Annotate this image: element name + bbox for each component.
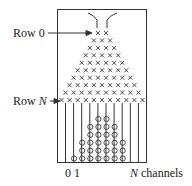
peg-x [136, 91, 140, 95]
peg-x [120, 91, 124, 95]
peg-x [88, 46, 92, 50]
peg-x [72, 76, 76, 80]
peg-x [104, 61, 108, 65]
peg-x [96, 46, 100, 50]
peg-x [100, 68, 104, 72]
peg-x [120, 61, 124, 65]
channels-variable: N [130, 166, 138, 180]
peg-x [84, 98, 88, 102]
peg-x [80, 76, 84, 80]
peg-x [112, 91, 116, 95]
peg-x [128, 76, 132, 80]
peg-x [120, 76, 124, 80]
peg-x [92, 83, 96, 87]
peg-x [128, 91, 132, 95]
row0-arrow [48, 31, 92, 36]
peg-x [92, 53, 96, 57]
peg-x [88, 76, 92, 80]
peg-x [108, 83, 112, 87]
channels-suffix: channels [138, 166, 183, 180]
peg-x [88, 91, 92, 95]
peg-x [100, 38, 104, 42]
peg-x [80, 91, 84, 95]
peg-x [124, 83, 128, 87]
peg-x [88, 61, 92, 65]
peg-x [76, 98, 80, 102]
rowN-arrow [50, 99, 60, 104]
funnel-icon [88, 13, 117, 28]
peg-x [124, 98, 128, 102]
n-channels-label: N channels [130, 167, 183, 179]
peg-x [92, 38, 96, 42]
peg-x [112, 61, 116, 65]
channel-0-label: 0 [65, 167, 71, 179]
peg-rows [60, 31, 145, 102]
peg-x [96, 31, 100, 35]
peg-x [80, 61, 84, 65]
row-0-label: Row 0 [13, 27, 45, 39]
peg-x [116, 83, 120, 87]
peg-x [132, 98, 136, 102]
peg-x [96, 61, 100, 65]
row-n-label: Row N [13, 95, 47, 107]
peg-x [100, 83, 104, 87]
peg-x [92, 68, 96, 72]
peg-x [116, 68, 120, 72]
peg-x [100, 98, 104, 102]
peg-x [132, 83, 136, 87]
peg-x [76, 68, 80, 72]
channel-dividers [66, 103, 139, 162]
channel-1-label: 1 [74, 167, 80, 179]
peg-x [116, 53, 120, 57]
row-n-prefix: Row [13, 94, 39, 108]
peg-x [104, 46, 108, 50]
peg-x [84, 68, 88, 72]
peg-x [96, 76, 100, 80]
peg-x [64, 91, 68, 95]
peg-x [112, 76, 116, 80]
peg-x [108, 53, 112, 57]
peg-x [108, 68, 112, 72]
peg-x [72, 91, 76, 95]
peg-x [104, 76, 108, 80]
peg-x [68, 98, 72, 102]
peg-x [124, 68, 128, 72]
peg-x [104, 91, 108, 95]
peg-x [96, 91, 100, 95]
peg-x [112, 46, 116, 50]
peg-x [68, 83, 72, 87]
peg-x [116, 98, 120, 102]
peg-x [141, 98, 145, 102]
peg-x [84, 53, 88, 57]
peg-x [100, 53, 104, 57]
row-n-variable: N [39, 94, 47, 108]
peg-x [108, 98, 112, 102]
peg-x [104, 31, 108, 35]
peg-x [92, 98, 96, 102]
peg-x [84, 83, 88, 87]
peg-x [108, 38, 112, 42]
peg-x [76, 83, 80, 87]
